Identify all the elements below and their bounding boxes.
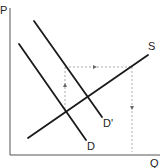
supply-demand-diagram: P Q S D D'	[0, 0, 164, 168]
demand-prime-curve	[34, 21, 102, 117]
arrow-up-icon	[63, 83, 67, 87]
supply-label: S	[148, 40, 155, 52]
arrow-right-icon	[93, 65, 97, 69]
y-axis-label: P	[0, 4, 7, 16]
demand-label: D	[87, 140, 95, 152]
arrow-down-icon	[130, 106, 134, 110]
demand-prime-label: D'	[103, 117, 113, 129]
x-axis-label: Q	[150, 157, 159, 168]
demand-curve	[19, 44, 86, 140]
